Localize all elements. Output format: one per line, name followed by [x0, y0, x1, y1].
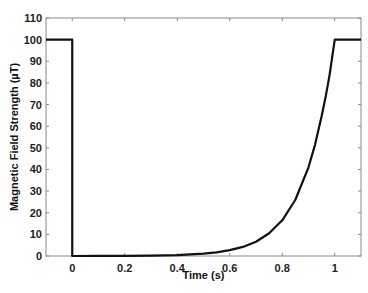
y-tick-label: 80 [30, 77, 42, 89]
y-tick-label: 40 [30, 163, 42, 175]
chart: 00.20.40.60.81 0102030405060708090100110… [0, 0, 368, 293]
x-tick-label: 1 [332, 262, 338, 274]
x-tick-label: 0.8 [275, 262, 290, 274]
x-tick-label: 0 [69, 262, 75, 274]
y-tick-label: 50 [30, 142, 42, 154]
y-axis-label: Magnetic Field Strength (µT) [8, 63, 20, 211]
y-tick-label: 30 [30, 185, 42, 197]
y-tick-label: 100 [24, 34, 42, 46]
y-tick-label: 0 [36, 250, 42, 262]
plot-area [46, 18, 361, 256]
x-axis-label: Time (s) [183, 269, 225, 281]
y-tick-label: 110 [24, 12, 42, 24]
x-tick-label: 0.2 [117, 262, 132, 274]
y-tick-label: 70 [30, 99, 42, 111]
y-tick-label: 60 [30, 120, 42, 132]
y-tick-label: 90 [30, 55, 42, 67]
y-tick-labels: 0102030405060708090100110 [24, 12, 42, 262]
y-tick-label: 20 [30, 207, 42, 219]
y-tick-label: 10 [30, 228, 42, 240]
